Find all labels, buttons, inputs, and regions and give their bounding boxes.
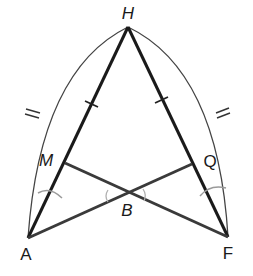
point-label-h: H (122, 5, 134, 22)
segment-hf (128, 27, 228, 237)
point-label-a: A (20, 246, 31, 263)
point-label-q: Q (203, 153, 216, 170)
segment-qa (28, 164, 192, 238)
point-label-b: B (121, 202, 132, 219)
geometry-diagram (0, 0, 253, 276)
segment-ha (28, 27, 128, 238)
point-label-m: M (39, 152, 53, 169)
double-tick-arc-left (25, 109, 40, 118)
double-tick-arc-right (216, 108, 230, 118)
segment-mf (65, 163, 228, 237)
point-label-f: F (223, 245, 233, 262)
construction-mark-b-left (106, 190, 108, 202)
